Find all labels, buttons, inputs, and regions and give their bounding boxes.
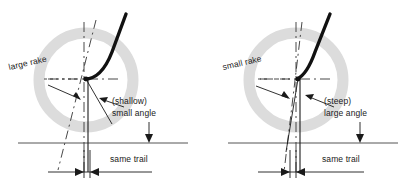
trail-arrowhead-left [281,168,290,176]
left-diagram-svg [0,0,204,191]
label-same-trail: same trail [110,154,148,165]
arrowhead-small-angle [99,97,108,103]
fork-axis-thin-line [286,79,298,152]
right-diagram-svg [204,0,408,191]
diagram-panel-small-rake: small rake (steep) large angle same trai… [204,0,408,191]
diagram-panel-large-rake: large rake (shallow) small angle same tr… [0,0,204,191]
label-shallow-line1: (shallow) [112,96,147,106]
label-shallow-angle: (shallow) small angle [112,96,156,119]
label-same-trail: same trail [322,154,360,165]
arrowhead-large-angle [305,94,314,100]
figure-root: large rake (shallow) small angle same tr… [0,0,408,191]
axle-hub-point [84,77,89,82]
arrowhead-large-rake [73,92,81,100]
arrowhead-ground-pointer [145,134,153,143]
arrowhead-ground-pointer [356,134,364,143]
arrowhead-small-rake [281,91,290,99]
axle-hub-point [296,77,301,82]
label-steep-angle: (steep) large angle [324,96,367,119]
label-shallow-line2: small angle [112,108,156,118]
label-steep-line1: (steep) [324,96,351,106]
label-steep-line2: large angle [324,108,367,118]
trail-arrowhead-left [75,168,84,176]
trail-arrowhead-right [90,168,99,176]
